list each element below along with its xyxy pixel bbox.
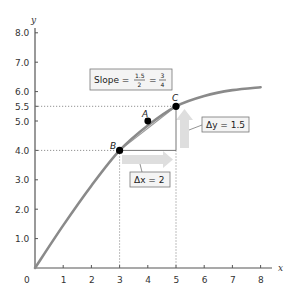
slope-result-denominator: 4 [161,81,165,88]
delta-y-label: Δy = 1.5 [206,120,245,130]
y-tick-label: 3.0 [15,175,30,185]
point-b [116,147,123,154]
point-a-label: A [141,109,148,119]
y-axis-label: y [30,15,37,25]
y-tick-label: 7.0 [15,58,30,68]
x-tick-label: 2 [89,275,95,285]
point-b-label: B [110,141,116,151]
slope-annotation: Slope = 1.5 2 = 3 4 [90,69,172,90]
delta-x-arrow [122,151,173,168]
slope-numerator: 1.5 [135,72,145,79]
x-tick-label: 8 [258,275,264,285]
x-tick-label: 6 [202,275,208,285]
delta-y-arrow [176,109,193,148]
slope-result-numerator: 3 [161,72,165,79]
delta-x-label: Δx = 2 [134,175,164,185]
points: A B C [110,93,180,154]
x-tick-label: 1 [61,275,67,285]
slope-denominator: 2 [138,81,142,88]
chart: 1.02.03.04.05.05.56.07.08.0 12345678 y x… [0,0,297,293]
y-tick-label: 1.0 [15,234,30,244]
y-tick-label: 6.0 [15,87,30,97]
x-tick-label: 7 [230,275,236,285]
x-tick-label: 3 [117,275,123,285]
axes [35,28,272,268]
y-tick-label: 2.0 [15,205,30,215]
point-c [172,103,179,110]
x-axis-label: x [278,263,283,273]
y-tick-label: 5.0 [15,117,30,127]
x-tick-label: 5 [174,275,180,285]
slope-equals: = [149,75,157,85]
x-tick-label: 4 [145,275,151,285]
y-tick-label: 5.5 [15,102,29,112]
point-c-label: C [172,93,179,103]
origin-label: 0 [24,275,30,285]
delta-x-annotation: Δx = 2 [130,164,170,187]
slope-prefix: Slope = [94,75,129,85]
y-tick-label: 4.0 [15,146,30,156]
delta-y-annotation: Δy = 1.5 [189,117,249,132]
y-tick-label: 8.0 [15,28,30,38]
